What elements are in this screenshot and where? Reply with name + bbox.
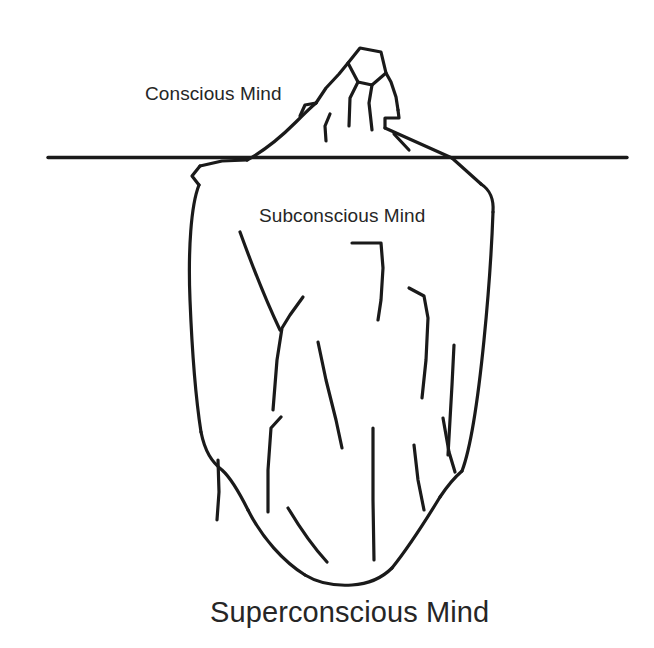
underwater-left-notch <box>192 166 200 185</box>
underwater-right-base <box>392 497 440 568</box>
tip-left-slope-upper <box>316 63 348 103</box>
underwater-right-shoulder-curve <box>481 184 493 212</box>
underwater-left-shoulder <box>200 160 247 166</box>
crack-left-bent <box>273 297 303 410</box>
tip-right-ledge <box>385 110 399 128</box>
underwater-right-flank <box>462 212 493 471</box>
crack-center-hook <box>352 243 383 320</box>
crack-center-left-diagonal <box>318 342 342 448</box>
label-superconscious-mind: Superconscious Mind <box>210 596 489 629</box>
iceberg-diagram: Conscious Mind Subconscious Mind Superco… <box>0 0 654 648</box>
underwater-right-shoulder <box>452 158 481 184</box>
label-subconscious-mind: Subconscious Mind <box>259 205 425 227</box>
crack-base-left-diagonal <box>288 508 327 562</box>
label-conscious-mind: Conscious Mind <box>145 83 282 105</box>
crack-far-left-short <box>217 460 219 520</box>
crack-left-lower-bent <box>268 417 281 512</box>
underwater-bottom <box>305 568 392 585</box>
iceberg-illustration <box>0 0 654 648</box>
crack-right-lower <box>414 445 424 510</box>
tip-right-slope <box>385 128 452 158</box>
tip-right-peak <box>386 73 398 110</box>
tip-facet-lower-center <box>325 114 330 141</box>
tip-left-slope-lower <box>247 103 316 160</box>
underwater-left-flank <box>189 185 201 432</box>
tip-facet-right <box>369 85 372 130</box>
summit-block <box>348 48 386 85</box>
underwater-left-lower <box>201 432 248 510</box>
crack-left-upper <box>240 232 280 330</box>
crack-right-bent <box>409 288 428 398</box>
crack-right-vertical <box>448 345 454 455</box>
tip-facet-center <box>349 82 358 126</box>
underwater-right-lower <box>440 471 462 497</box>
crack-center-vertical <box>373 428 374 560</box>
